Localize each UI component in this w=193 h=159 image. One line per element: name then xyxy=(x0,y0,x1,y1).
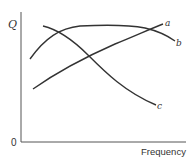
curve-b xyxy=(30,25,175,59)
curve-b-label: b xyxy=(176,38,182,48)
origin-label: 0 xyxy=(11,137,17,148)
curve-c xyxy=(43,26,156,105)
x-axis-label: Frequency xyxy=(141,146,186,157)
curve-a-label: a xyxy=(165,18,170,28)
y-axis-label: Q xyxy=(8,18,17,31)
curve-c-label: c xyxy=(157,101,162,111)
curve-a xyxy=(33,24,163,89)
q-vs-frequency-chart: Q 0 Frequency a b c xyxy=(0,0,193,159)
